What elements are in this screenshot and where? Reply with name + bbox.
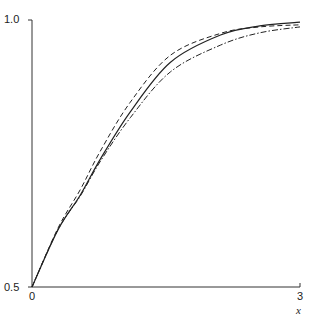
x-tick-label-right: 3 [297, 291, 303, 302]
series-line-solid [32, 22, 300, 287]
y-tick-label-top: 1.0 [4, 14, 19, 25]
series-line-dashed [32, 25, 300, 287]
x-tick-label-left: 0 [29, 291, 35, 302]
y-tick-label-bottom: 0.5 [4, 282, 19, 293]
axes [28, 20, 300, 287]
series-layer [32, 22, 300, 287]
x-axis-title: x [296, 305, 301, 316]
chart-plot [0, 0, 314, 325]
